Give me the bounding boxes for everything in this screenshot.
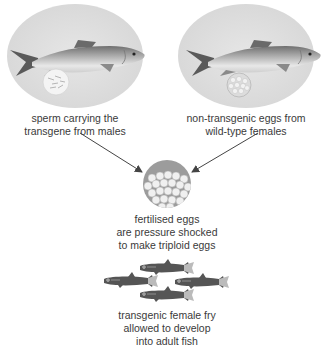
- female-label-line1: non-transgenic eggs from: [168, 112, 324, 125]
- male-label-line2: transgene from males: [0, 125, 150, 138]
- fertilised-label: fertilised eggs are pressure shocked to …: [87, 213, 247, 252]
- fry-label-line2: allowed to develop: [87, 322, 247, 335]
- sperm-icon: [43, 69, 69, 95]
- female-label-line2: wild-type females: [168, 125, 324, 138]
- egg-cluster-icon: [143, 160, 192, 211]
- fry-label-line1: transgenic female fry: [87, 309, 247, 322]
- male-label-line1: sperm carrying the: [0, 112, 150, 125]
- fertilised-label-line2: are pressure shocked: [87, 226, 247, 239]
- fry-label: transgenic female fry allowed to develop…: [87, 309, 247, 348]
- arrow-male-to-eggs: [80, 133, 142, 172]
- female-label: non-transgenic eggs from wild-type femal…: [168, 112, 324, 138]
- fertilised-label-line3: to make triploid eggs: [87, 239, 247, 252]
- fry-group-icon: [104, 259, 229, 302]
- male-fish-ellipse: [7, 4, 145, 108]
- female-fish-ellipse: [178, 4, 321, 108]
- arrow-female-to-eggs: [192, 133, 258, 172]
- male-label: sperm carrying the transgene from males: [0, 112, 150, 138]
- fertilised-label-line1: fertilised eggs: [87, 213, 247, 226]
- diagram-canvas: [0, 0, 324, 351]
- fry-label-line3: into adult fish: [87, 335, 247, 348]
